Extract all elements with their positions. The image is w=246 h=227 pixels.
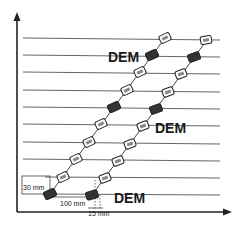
sensor-icon <box>94 118 107 130</box>
dem-label-top: DEM <box>108 49 139 65</box>
sensor-icon <box>158 32 171 44</box>
sensor-icon <box>69 153 82 165</box>
dim-label-30mm: 30 mm <box>23 184 45 191</box>
dem-label-middle: DEM <box>155 120 186 136</box>
sensor-icon <box>56 171 69 183</box>
sensor-icon <box>161 86 174 97</box>
sensor-icon <box>123 138 136 149</box>
sensor-icon <box>111 155 124 166</box>
sensor-icon <box>136 120 149 131</box>
sensor-icon <box>82 136 95 148</box>
dem-label-bottom: DEM <box>114 190 145 206</box>
sensor-icon <box>98 172 111 183</box>
y-axis-arrow-icon <box>14 12 21 21</box>
sensor-icon <box>145 49 159 61</box>
sensor-icon <box>85 190 99 201</box>
axes <box>14 12 233 216</box>
sensor-icon <box>133 66 146 78</box>
dim-label-100mm: 100 mm <box>60 200 85 207</box>
dim-label-15mm: 15 mm <box>88 210 110 217</box>
sensor-icon <box>174 68 187 79</box>
sensor-icon <box>200 35 212 45</box>
sensor-layout-diagram: DEM DEM DEM 30 mm 100 mm 15 mm <box>0 0 246 227</box>
sensor-icon <box>120 84 133 96</box>
x-axis-arrow-icon <box>223 209 232 216</box>
sensor-icon <box>107 101 121 113</box>
sensor-icon <box>187 51 201 63</box>
sensor-icon <box>149 103 163 115</box>
sensor-icon <box>43 188 57 200</box>
